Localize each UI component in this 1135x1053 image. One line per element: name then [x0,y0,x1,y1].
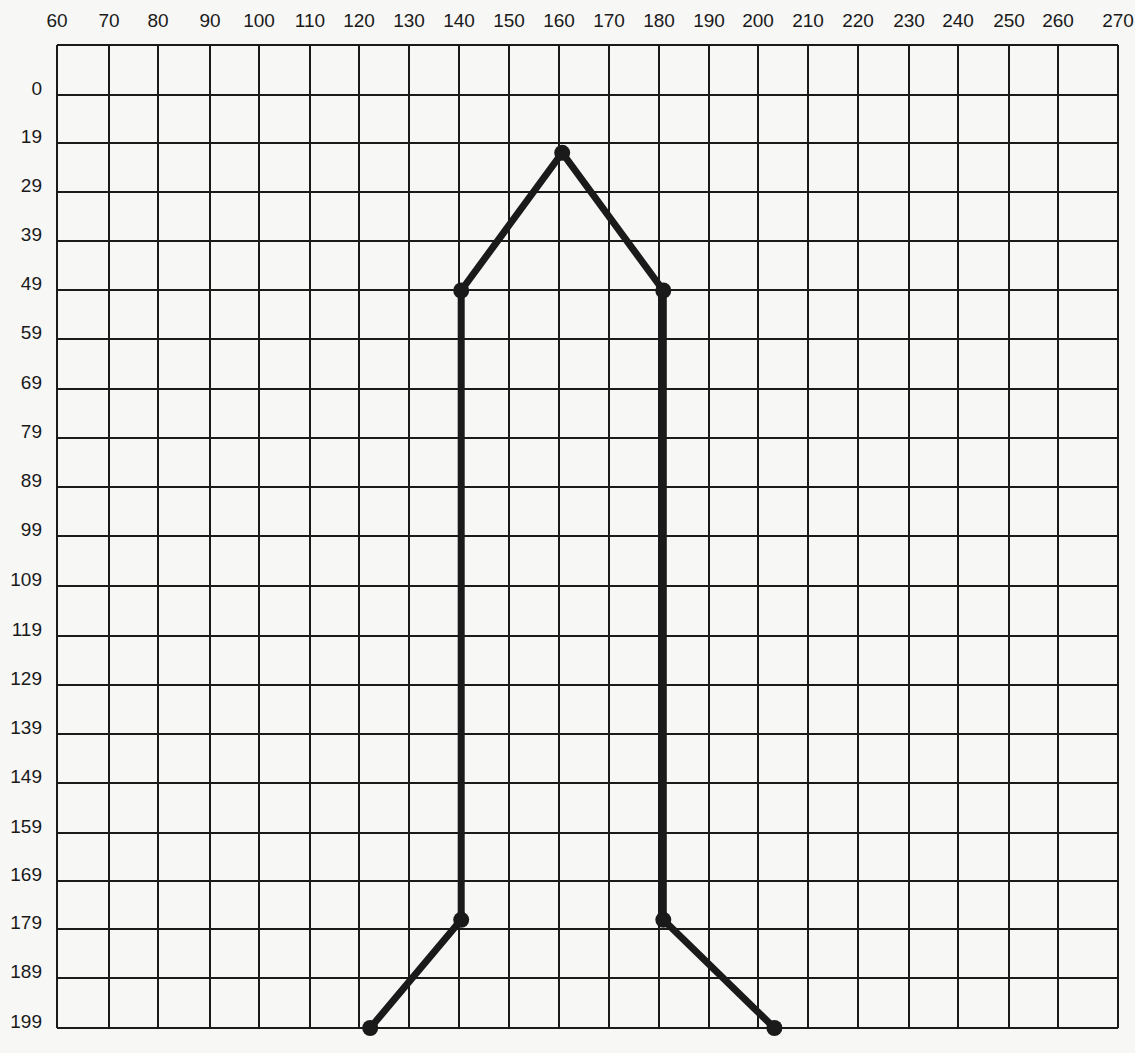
figure-outline [362,145,782,1036]
grid-canvas [0,0,1135,1053]
vertex-dot-left-shoulder [453,283,469,299]
figure-path [370,153,774,1028]
vertex-dot-right-foot [766,1020,782,1036]
vertex-dot-left-lower-joint [453,912,469,928]
vertex-dot-right-lower-joint [655,912,671,928]
vertex-dot-left-foot [362,1020,378,1036]
coordinate-grid-diagram: 6070809010011012013014015016017018019020… [0,0,1135,1053]
vertex-dot-apex [554,145,570,161]
vertex-dot-right-shoulder [655,283,671,299]
